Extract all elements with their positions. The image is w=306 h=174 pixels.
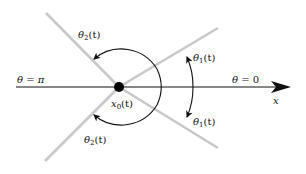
label-theta2-upper: θ2(t) [78, 29, 100, 42]
center-point [114, 82, 124, 92]
ray-lower-left [45, 87, 119, 161]
label-theta1-upper: θ1(t) [193, 52, 215, 65]
label-theta1-lower: θ1(t) [193, 116, 215, 129]
theta2-upper-arc [94, 49, 157, 69]
angle-diagram: θ = π θ = 0 x x0(t) θ2(t) θ2(t) θ1(t) θ1… [0, 0, 306, 174]
label-x0: x0(t) [111, 98, 133, 111]
label-theta2-lower: θ2(t) [84, 134, 106, 147]
theta1-lower-arc [187, 87, 193, 117]
ray-upper-left [46, 13, 119, 87]
label-theta-zero: θ = 0 [232, 74, 259, 85]
label-theta-pi: θ = π [17, 74, 45, 85]
label-x-axis: x [273, 95, 279, 106]
